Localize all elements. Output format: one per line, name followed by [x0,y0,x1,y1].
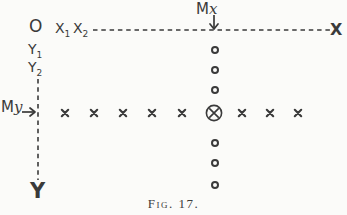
x-load-marker [91,110,97,116]
origin-label: O [29,18,42,35]
o-marker-column [212,47,218,188]
o-load-marker [212,140,218,146]
x-load-marker [62,110,68,116]
my-variable: y [14,98,22,116]
x1-label: X1 [55,21,70,35]
x-axis-end-label: X [330,22,342,38]
figure-caption: Fig. 17. [0,196,347,212]
y2-label: Y2 [28,60,42,74]
y1-base: Y [28,41,37,57]
my-arrow [22,108,35,116]
x2-label: X2 [73,21,88,35]
x1-subscript-icon: 1 [65,29,71,39]
o-load-marker [212,87,218,93]
o-load-marker [212,67,218,73]
center-circled-x-marker [206,105,221,120]
x-load-marker [120,110,126,116]
x2-base: X [73,20,83,36]
o-load-marker [212,182,218,188]
y1-subscript-icon: 1 [37,50,43,60]
y1-label: Y1 [28,42,42,56]
mx-moment-label: Mx [196,2,217,17]
x2-subscript-icon: 2 [83,29,89,39]
x-load-marker [179,110,185,116]
x-load-marker [239,110,245,116]
o-load-marker [212,160,218,166]
x-load-marker [267,110,273,116]
y2-base: Y [28,59,37,75]
x-marker-row [62,110,301,116]
my-moment-label: My [1,100,22,115]
mx-base: M [196,0,209,18]
y2-subscript-icon: 2 [37,68,43,78]
scanned-figure-page: O X1 X2 Y1 Y2 Mx My X Y Fig. 17. [0,0,347,215]
mx-variable: x [209,0,217,18]
my-base: M [1,98,14,116]
o-load-marker [212,47,218,53]
figure-17-diagram [0,0,347,215]
x-load-marker [149,110,155,116]
center-cross [210,109,218,117]
x-load-marker [295,110,301,116]
x1-base: X [55,20,65,36]
